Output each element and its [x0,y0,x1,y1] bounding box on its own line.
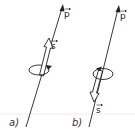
helicity-diagram: p s a) p s b) [0,0,135,132]
spin-label-a: s [51,41,56,51]
panel-b: p s b) [72,5,127,128]
spin-label-b: s [96,105,101,115]
rotation-ellipse-front-a [29,70,49,75]
momentum-label-a: p [64,9,70,19]
momentum-label-b: p [120,11,126,21]
vector-arrow-s-a [56,40,58,42]
vector-arrow-p-a [69,8,71,10]
momentum-line-b [89,9,118,127]
spin-arrow-b [90,70,103,102]
panel-label-b: b) [72,117,82,128]
vector-arrow-s-b [101,104,103,106]
panel-label-a: a) [9,117,19,128]
panel-a: p s a) [9,4,71,128]
vector-arrow-p-b [125,10,127,12]
